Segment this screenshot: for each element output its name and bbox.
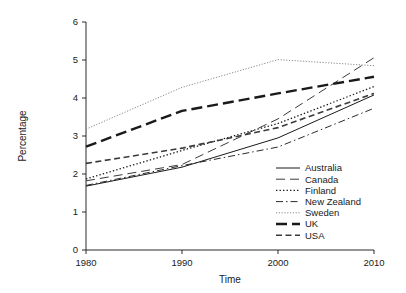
y-tick-label: 4	[73, 92, 78, 103]
y-tick-label: 0	[73, 244, 78, 255]
x-tick-label: 1990	[171, 257, 192, 268]
x-tick-label: 2010	[363, 257, 384, 268]
legend-label-sweden: Sweden	[305, 207, 339, 218]
legend-label-australia: Australia	[305, 162, 343, 173]
y-axis-title: Percentage	[17, 110, 28, 162]
legend-label-new-zealand: New Zealand	[305, 196, 361, 207]
y-tick-label: 2	[73, 168, 78, 179]
legend: AustraliaCanadaFinlandNew ZealandSwedenU…	[276, 162, 361, 240]
x-tick-label: 1980	[75, 257, 96, 268]
series-line-uk	[86, 77, 374, 147]
legend-label-canada: Canada	[305, 174, 339, 185]
x-axis-title: Time	[219, 274, 241, 285]
legend-label-usa: USA	[305, 230, 325, 241]
x-tick-label: 2000	[267, 257, 288, 268]
legend-label-uk: UK	[305, 218, 319, 229]
line-chart: 0123456 1980199020002010 Percentage Time…	[0, 0, 406, 293]
y-tick-label: 6	[73, 16, 78, 27]
legend-label-finland: Finland	[305, 185, 336, 196]
y-tick-label: 5	[73, 54, 78, 65]
chart-canvas: 0123456 1980199020002010 Percentage Time…	[0, 0, 406, 293]
y-axis-ticks: 0123456	[73, 16, 86, 255]
y-tick-label: 3	[73, 130, 78, 141]
x-axis-ticks: 1980199020002010	[75, 250, 384, 268]
series-line-sweden	[86, 60, 374, 130]
y-tick-label: 1	[73, 206, 78, 217]
